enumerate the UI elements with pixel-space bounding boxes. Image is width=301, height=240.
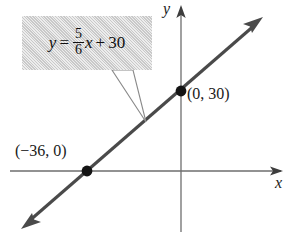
- line-arrowhead-lower-left: [21, 213, 41, 229]
- x-axis-label: x: [275, 175, 282, 191]
- equation-plus-sign: +: [96, 33, 106, 53]
- equation-callout-box: y = 5 6 x + 30: [22, 16, 152, 70]
- equation-equals-sign: =: [59, 33, 69, 53]
- equation-fraction-denominator: 6: [73, 42, 84, 57]
- equation-fraction-numerator: 5: [73, 27, 84, 41]
- point-marker-y-intercept: [176, 86, 187, 97]
- point-label-y-intercept: (0, 30): [187, 86, 230, 102]
- equation-expression: y = 5 6 x + 30: [49, 28, 125, 58]
- equation-fraction: 5 6: [73, 27, 84, 57]
- y-axis-label: y: [163, 1, 170, 17]
- callout-pointer-tail: [112, 70, 146, 122]
- graph-figure: y = 5 6 x + 30 y x (0, 30) (−36, 0): [0, 0, 301, 240]
- equation-lhs: y: [49, 33, 57, 53]
- line-arrowhead-upper-right: [243, 17, 263, 33]
- y-axis: [176, 5, 185, 232]
- point-label-x-intercept: (−36, 0): [15, 143, 67, 159]
- equation-variable-x: x: [85, 33, 93, 53]
- equation-constant: 30: [108, 33, 125, 53]
- point-marker-x-intercept: [82, 166, 93, 177]
- x-axis: [10, 167, 283, 176]
